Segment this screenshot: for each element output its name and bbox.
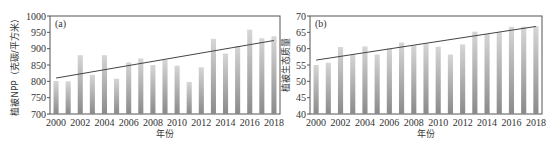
bar-2007 bbox=[399, 42, 404, 114]
x-axis-title: 年份 bbox=[417, 128, 435, 139]
y-tick-label: 800 bbox=[31, 76, 46, 87]
bar-2012 bbox=[460, 44, 465, 114]
y-axis-title: 植被生态质量 bbox=[280, 38, 291, 92]
x-tick-label: 2016 bbox=[501, 117, 521, 128]
bar-2008 bbox=[411, 45, 416, 114]
bar-2014 bbox=[484, 34, 489, 114]
y-tick-label: 700 bbox=[31, 109, 46, 120]
x-tick-label: 2016 bbox=[240, 117, 260, 128]
x-tick-label: 2002 bbox=[331, 117, 351, 128]
x-tick-label: 2008 bbox=[143, 117, 163, 128]
bar-2018 bbox=[533, 26, 538, 114]
y-tick-label: 65 bbox=[296, 27, 306, 38]
y-tick-label: 950 bbox=[31, 27, 46, 38]
panel-label: (b) bbox=[315, 18, 327, 30]
x-tick-label: 2010 bbox=[428, 117, 448, 128]
x-tick-label: 2012 bbox=[191, 117, 211, 128]
x-tick-label: 2008 bbox=[404, 117, 424, 128]
y-tick-label: 900 bbox=[31, 43, 46, 54]
x-tick-label: 2006 bbox=[379, 117, 399, 128]
bar-2002 bbox=[78, 55, 83, 114]
bar-2015 bbox=[497, 32, 502, 114]
bar-2003 bbox=[90, 75, 95, 114]
y-tick-label: 40 bbox=[296, 109, 306, 120]
bar-2009 bbox=[423, 43, 428, 114]
x-tick-label: 2004 bbox=[355, 117, 375, 128]
y-tick-label: 1000 bbox=[26, 11, 46, 22]
panel-label: (a) bbox=[55, 18, 66, 30]
x-tick-label: 2014 bbox=[216, 117, 236, 128]
x-tick-label: 2010 bbox=[167, 117, 187, 128]
bar-2005 bbox=[114, 79, 119, 114]
bar-2017 bbox=[259, 38, 264, 114]
bar-2008 bbox=[150, 65, 155, 114]
bar-2005 bbox=[375, 55, 380, 114]
chart-a-npp: 7007508008509009501000200020022004200620… bbox=[0, 0, 284, 152]
chart-b-canvas: 4045505560657020002002200420062008201020… bbox=[276, 0, 556, 152]
y-tick-label: 70 bbox=[296, 11, 306, 22]
x-tick-label: 2000 bbox=[46, 117, 66, 128]
bar-2017 bbox=[521, 27, 526, 114]
chart-a-canvas: 7007508008509009501000200020022004200620… bbox=[0, 0, 284, 152]
bar-2004 bbox=[102, 55, 107, 114]
y-tick-label: 45 bbox=[296, 92, 306, 103]
bar-2014 bbox=[223, 54, 228, 114]
bar-2009 bbox=[162, 60, 167, 114]
bar-2003 bbox=[350, 55, 355, 114]
y-tick-label: 50 bbox=[296, 76, 306, 87]
x-axis-title: 年份 bbox=[156, 128, 174, 139]
x-tick-label: 2012 bbox=[453, 117, 473, 128]
bar-2006 bbox=[387, 49, 392, 114]
bar-2013 bbox=[472, 32, 477, 114]
bar-2006 bbox=[126, 62, 131, 114]
bar-2016 bbox=[509, 27, 514, 114]
y-tick-label: 850 bbox=[31, 60, 46, 71]
y-tick-label: 55 bbox=[296, 60, 306, 71]
bar-2010 bbox=[436, 47, 441, 114]
bar-2010 bbox=[175, 66, 180, 114]
y-tick-label: 60 bbox=[296, 43, 306, 54]
bar-2015 bbox=[235, 46, 240, 114]
x-tick-label: 2004 bbox=[94, 117, 114, 128]
bar-2007 bbox=[138, 58, 143, 114]
bar-2001 bbox=[66, 81, 71, 114]
bar-2004 bbox=[362, 46, 367, 114]
x-tick-label: 2018 bbox=[526, 117, 546, 128]
x-tick-label: 2006 bbox=[119, 117, 139, 128]
y-axis-title: 植被NPP（克碳/平方米） bbox=[9, 14, 20, 116]
chart-b-ecological-quality: 4045505560657020002002200420062008201020… bbox=[276, 0, 556, 152]
bar-2011 bbox=[187, 82, 192, 114]
bar-2012 bbox=[199, 67, 204, 114]
x-tick-label: 2000 bbox=[306, 117, 326, 128]
bar-2000 bbox=[54, 81, 59, 114]
x-tick-label: 2002 bbox=[70, 117, 90, 128]
bar-2000 bbox=[314, 65, 319, 114]
bar-2016 bbox=[247, 30, 252, 114]
x-tick-label: 2014 bbox=[477, 117, 497, 128]
bar-2011 bbox=[448, 55, 453, 114]
bar-2001 bbox=[326, 63, 331, 114]
y-tick-label: 750 bbox=[31, 92, 46, 103]
